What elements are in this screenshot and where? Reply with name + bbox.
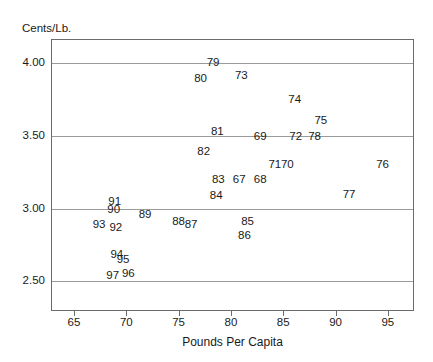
plot-frame: 7980737475816972788271707683676884779190… bbox=[51, 39, 414, 311]
data-point-label: 87 bbox=[185, 219, 198, 231]
y-axis-caption: Cents/Lb. bbox=[22, 22, 71, 34]
data-point-label: 84 bbox=[210, 191, 223, 203]
data-point-label: 76 bbox=[376, 159, 389, 171]
data-point-label: 92 bbox=[109, 222, 122, 234]
data-point-label: 81 bbox=[211, 127, 224, 139]
data-point-label: 89 bbox=[139, 209, 152, 221]
data-point-label: 68 bbox=[254, 175, 267, 187]
gridline-horizontal bbox=[52, 63, 413, 64]
x-axis-title: Pounds Per Capita bbox=[51, 335, 414, 349]
x-axis-tick-label: 90 bbox=[329, 316, 342, 328]
data-point-label: 85 bbox=[241, 216, 254, 228]
data-point-label: 82 bbox=[197, 146, 210, 158]
x-axis-tick-label: 75 bbox=[172, 316, 185, 328]
x-axis-tick-label: 80 bbox=[225, 316, 238, 328]
x-axis-tick-label: 85 bbox=[277, 316, 290, 328]
data-point-label: 70 bbox=[281, 159, 294, 171]
data-point-label: 78 bbox=[308, 131, 321, 143]
data-point-label: 71 bbox=[268, 159, 281, 171]
data-point-label: 74 bbox=[288, 95, 301, 107]
data-point-label: 83 bbox=[212, 175, 225, 187]
plot-area: 7980737475816972788271707683676884779190… bbox=[52, 40, 413, 310]
x-axis-tick-label: 70 bbox=[120, 316, 133, 328]
data-point-label: 72 bbox=[289, 131, 302, 143]
data-point-label: 90 bbox=[107, 204, 120, 216]
x-axis-tick-label: 95 bbox=[381, 316, 394, 328]
data-point-label: 73 bbox=[235, 71, 248, 83]
data-point-label: 79 bbox=[207, 58, 220, 70]
y-axis-tick-label: 4.00 bbox=[23, 56, 45, 68]
data-point-label: 96 bbox=[122, 268, 135, 280]
gridline-horizontal bbox=[52, 209, 413, 210]
gridline-horizontal bbox=[52, 136, 413, 137]
y-axis-tick-labels: 2.503.003.504.00 bbox=[0, 39, 45, 311]
data-point-label: 80 bbox=[194, 73, 207, 85]
data-point-label: 97 bbox=[106, 271, 119, 283]
chart-screenshot: Cents/Lb. 2.503.003.504.00 7980737475816… bbox=[0, 0, 433, 362]
x-axis-tick-labels: 65707580859095 bbox=[51, 316, 414, 334]
data-point-label: 69 bbox=[254, 131, 267, 143]
x-axis-tick-label: 65 bbox=[68, 316, 81, 328]
data-point-label: 95 bbox=[117, 255, 130, 267]
y-axis-tick-label: 3.50 bbox=[23, 129, 45, 141]
data-point-label: 93 bbox=[93, 220, 106, 232]
data-point-label: 88 bbox=[172, 216, 185, 228]
data-point-label: 75 bbox=[314, 115, 327, 127]
y-axis-tick-label: 2.50 bbox=[23, 274, 45, 286]
data-point-label: 77 bbox=[343, 189, 356, 201]
data-point-label: 67 bbox=[233, 175, 246, 187]
data-point-label: 86 bbox=[238, 230, 251, 242]
y-axis-tick-label: 3.00 bbox=[23, 202, 45, 214]
